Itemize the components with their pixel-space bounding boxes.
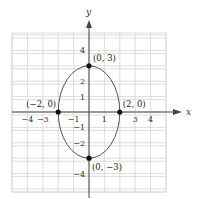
x-tick-label: 3 — [133, 115, 138, 124]
y-tick-label: −2 — [73, 139, 85, 148]
data-point — [56, 109, 61, 114]
x-tick-label: 1 — [102, 115, 107, 124]
data-point — [86, 156, 91, 161]
x-tick-label: −3 — [37, 115, 49, 124]
point-label: (0, 3) — [93, 53, 116, 63]
y-tick-label: 4 — [80, 46, 85, 55]
y-axis-arrow-icon — [86, 20, 92, 28]
y-tick-label: 1 — [80, 93, 85, 102]
point-label: (2, 0) — [123, 99, 146, 109]
point-label: (0, −3) — [92, 162, 122, 172]
y-tick-label: −4 — [73, 170, 85, 179]
y-axis-label: y — [85, 7, 92, 17]
data-point — [86, 63, 91, 68]
x-axis-label: x — [186, 107, 191, 117]
point-label: (−2, 0) — [26, 99, 56, 109]
x-tick-label: 4 — [148, 115, 153, 124]
y-tick-label: −1 — [73, 123, 85, 132]
data-point — [117, 109, 122, 114]
ellipse-graph: x y −4−3−1134421−1−2−4 (0, 3)(2, 0)(−2, … — [0, 0, 197, 199]
x-axis-arrow-icon — [173, 109, 182, 115]
y-tick-label: 2 — [80, 77, 85, 86]
x-tick-label: −4 — [22, 115, 34, 124]
